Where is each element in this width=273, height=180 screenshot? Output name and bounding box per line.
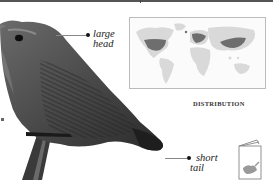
world-map-icon (130, 18, 265, 88)
tail-callout-line2: tail (190, 163, 218, 173)
distribution-map (129, 17, 266, 89)
head-callout-line (56, 35, 86, 36)
stray-mark (1, 118, 4, 121)
tail-callout-label: short tail (196, 153, 218, 173)
map-caption: DISTRIBUTION (193, 100, 245, 107)
head-callout-line2: head (93, 39, 115, 49)
tail-callout-dot (187, 156, 191, 160)
head-callout-dot (86, 33, 90, 37)
head-callout-label: large head (93, 29, 115, 49)
tail-callout-line (165, 158, 187, 159)
book-icon (237, 138, 265, 180)
